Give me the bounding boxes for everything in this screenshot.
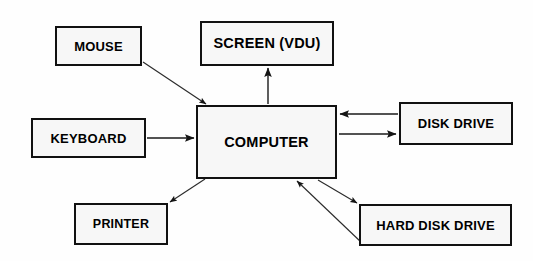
node-printer[interactable]: PRINTER	[74, 203, 168, 245]
connector-harddisk-to-computer	[297, 181, 362, 243]
node-keyboard-label: KEYBOARD	[51, 132, 127, 145]
node-mouse-label: MOUSE	[74, 40, 123, 53]
node-hard-disk-drive[interactable]: HARD DISK DRIVE	[359, 204, 512, 246]
connector-mouse-to-computer	[143, 62, 206, 104]
node-screen-label: SCREEN (VDU)	[213, 36, 320, 51]
node-computer-label: COMPUTER	[224, 135, 309, 150]
node-disk-drive[interactable]: DISK DRIVE	[399, 102, 513, 145]
node-mouse[interactable]: MOUSE	[55, 26, 142, 66]
node-screen[interactable]: SCREEN (VDU)	[200, 21, 334, 66]
node-hard-disk-drive-label: HARD DISK DRIVE	[376, 219, 495, 232]
node-keyboard[interactable]: KEYBOARD	[31, 118, 146, 158]
node-computer[interactable]: COMPUTER	[196, 105, 337, 179]
node-disk-drive-label: DISK DRIVE	[418, 117, 494, 130]
connector-computer-to-printer	[170, 179, 205, 202]
connector-computer-to-harddisk	[318, 180, 357, 203]
node-printer-label: PRINTER	[93, 218, 149, 231]
diagram-canvas: MOUSE SCREEN (VDU) COMPUTER KEYBOARD DIS…	[0, 0, 533, 261]
